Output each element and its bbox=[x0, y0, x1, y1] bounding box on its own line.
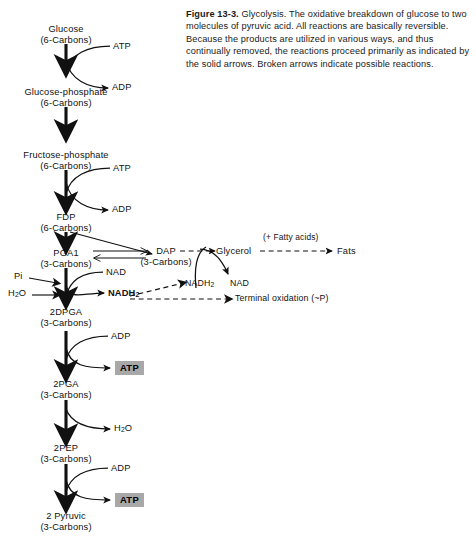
label-nad-side: NAD bbox=[230, 278, 249, 289]
node-glucose: Glucose (6-Carbons) bbox=[40, 24, 91, 45]
node-pga1-carbons: (3-Carbons) bbox=[40, 259, 91, 270]
label-nadh2-side-text: NADH bbox=[185, 278, 211, 288]
node-fructose-phosphate: Fructose-phosphate (6-Carbons) bbox=[23, 150, 108, 171]
label-nad-input: NAD bbox=[106, 267, 126, 278]
label-atp-input-2: ATP bbox=[113, 163, 131, 174]
node-dap-name: DAP bbox=[156, 246, 176, 256]
node-pga1-name: PGA1 bbox=[53, 248, 78, 258]
label-fatty-acids: (+ Fatty acids) bbox=[263, 232, 319, 243]
label-atp-input-1: ATP bbox=[113, 41, 131, 52]
label-glycerol: Glycerol bbox=[216, 246, 251, 257]
node-glucose-phosphate-carbons: (6-Carbons) bbox=[24, 98, 107, 109]
node-glucose-phosphate-name: Glucose-phosphate bbox=[24, 87, 107, 97]
label-nadh2-text: NADH bbox=[108, 288, 135, 298]
node-fdp-carbons: (6-Carbons) bbox=[40, 223, 91, 234]
label-nadh2-side: NADH2 bbox=[185, 278, 214, 291]
label-adp-output-2: ADP bbox=[112, 204, 132, 215]
node-pga1: PGA1 (3-Carbons) bbox=[40, 248, 91, 269]
node-glucose-phosphate: Glucose-phosphate (6-Carbons) bbox=[24, 87, 107, 108]
label-h2o-input: H2O bbox=[8, 288, 26, 301]
label-nadh2-side-subscript: 2 bbox=[211, 281, 215, 288]
node-glucose-carbons: (6-Carbons) bbox=[40, 35, 91, 46]
label-adp-input-1: ADP bbox=[111, 331, 131, 342]
node-2pyruvic-carbons: (3-Carbons) bbox=[40, 522, 91, 533]
node-fructose-phosphate-carbons: (6-Carbons) bbox=[23, 161, 108, 172]
node-2pep-name: 2PEP bbox=[54, 443, 78, 453]
node-2dpga-carbons: (3-Carbons) bbox=[40, 318, 91, 329]
node-2pyruvic-name: 2 Pyruvic bbox=[46, 511, 86, 521]
node-2pga: 2PGA (3-Carbons) bbox=[40, 379, 91, 400]
label-terminal-oxidation: Terminal oxidation (~P) bbox=[235, 293, 329, 304]
node-glucose-name: Glucose bbox=[48, 24, 83, 34]
node-fdp: FDP (6-Carbons) bbox=[40, 212, 91, 233]
label-nadh2-subscript: 2 bbox=[135, 291, 139, 298]
node-2dpga: 2DPGA (3-Carbons) bbox=[40, 307, 91, 328]
label-fats: Fats bbox=[337, 246, 356, 257]
label-nadh2-output: NADH2 bbox=[108, 288, 139, 301]
node-2pga-carbons: (3-Carbons) bbox=[40, 390, 91, 401]
label-adp-output-1: ADP bbox=[112, 82, 132, 93]
label-pi-input: Pi bbox=[14, 271, 23, 282]
atp-chip-1: ATP bbox=[115, 361, 144, 375]
node-2pep: 2PEP (3-Carbons) bbox=[40, 443, 91, 464]
node-2dpga-name: 2DPGA bbox=[50, 307, 82, 317]
label-h2o-output: H2O bbox=[114, 423, 132, 436]
node-dap: DAP (3-Carbons) bbox=[140, 246, 191, 267]
node-fdp-name: FDP bbox=[56, 212, 75, 222]
label-adp-input-2: ADP bbox=[111, 463, 131, 474]
atp-chip-2: ATP bbox=[115, 493, 144, 507]
node-fructose-phosphate-name: Fructose-phosphate bbox=[23, 150, 108, 160]
node-2pyruvic: 2 Pyruvic (3-Carbons) bbox=[40, 511, 91, 532]
node-2pga-name: 2PGA bbox=[53, 379, 78, 389]
node-2pep-carbons: (3-Carbons) bbox=[40, 454, 91, 465]
node-dap-carbons: (3-Carbons) bbox=[140, 257, 191, 268]
cofactor-curves bbox=[29, 46, 152, 500]
figure-canvas: Figure 13-3. Glycolysis. The oxidative b… bbox=[0, 0, 476, 543]
